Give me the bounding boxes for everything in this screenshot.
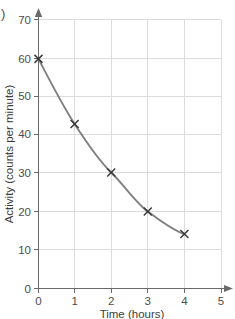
y-tick-label-10: 10 (18, 244, 31, 256)
y-tick-label-50: 50 (18, 90, 31, 102)
x-tick-label-3: 3 (145, 295, 151, 307)
x-tick-label-2: 2 (108, 295, 114, 307)
y-tick-label-20: 20 (18, 206, 31, 218)
part-label: ) (1, 6, 5, 21)
x-axis-title: Time (hours) (100, 308, 165, 319)
y-axis-tick-labels: 70 60 50 40 30 20 10 0 (18, 14, 31, 295)
x-axis-tick-marks (39, 289, 222, 294)
activity-decay-chart: 70 60 50 40 30 20 10 0 0 1 2 3 4 5 Time … (0, 0, 235, 319)
y-tick-label-70: 70 (18, 14, 31, 26)
y-tick-label-60: 60 (18, 53, 31, 65)
x-tick-label-4: 4 (181, 295, 188, 307)
vertical-gridlines (75, 20, 221, 289)
x-axis-tick-labels: 0 1 2 3 4 5 (35, 295, 224, 307)
y-axis-title: Activity (counts per minute) (3, 84, 15, 223)
y-tick-label-30: 30 (18, 167, 31, 179)
figure-container: 70 60 50 40 30 20 10 0 0 1 2 3 4 5 Time … (0, 0, 235, 319)
x-axis-arrowhead (224, 285, 233, 292)
y-axis-arrowhead (35, 8, 42, 17)
y-tick-label-0: 0 (25, 283, 31, 295)
x-tick-label-0: 0 (35, 295, 41, 307)
y-tick-label-40: 40 (18, 128, 31, 140)
x-tick-label-5: 5 (218, 295, 224, 307)
horizontal-gridlines (38, 20, 221, 250)
x-tick-label-1: 1 (71, 295, 77, 307)
